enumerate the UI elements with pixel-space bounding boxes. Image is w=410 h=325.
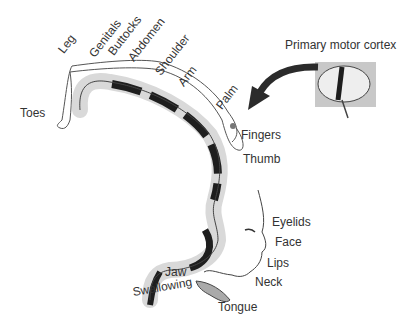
- label-toes: Toes: [20, 106, 45, 120]
- label-neck: Neck: [255, 275, 282, 289]
- tongue-shape: [196, 281, 230, 302]
- inset-label: Primary motor cortex: [285, 38, 396, 52]
- label-thumb: Thumb: [243, 152, 280, 166]
- label-eyelids: Eyelids: [272, 215, 311, 229]
- label-lips: Lips: [267, 256, 289, 270]
- label-tongue: Tongue: [218, 300, 257, 314]
- arrow: [260, 67, 318, 92]
- label-fingers: Fingers: [241, 128, 281, 142]
- label-face: Face: [275, 235, 302, 249]
